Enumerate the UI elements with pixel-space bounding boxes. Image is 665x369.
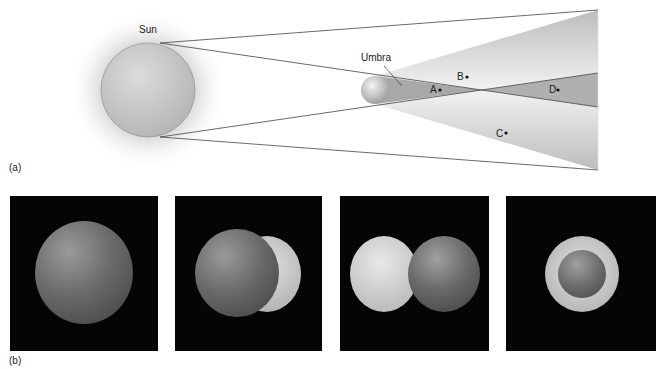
point-a-label: A xyxy=(430,84,437,95)
point-d-label: D xyxy=(549,84,556,95)
point-b-label: B xyxy=(457,71,464,82)
moon-body xyxy=(361,76,389,104)
moon-disk xyxy=(408,236,480,312)
sun-label: Sun xyxy=(139,24,157,35)
point-c-label: C xyxy=(496,128,503,139)
eclipse-panel-4 xyxy=(506,196,656,351)
sun xyxy=(101,43,195,137)
eclipse-panel-1 xyxy=(10,196,158,351)
part-b-label: (b) xyxy=(9,355,21,366)
moon-disk xyxy=(558,250,606,298)
umbra-label: Umbra xyxy=(361,52,391,63)
eclipse-panel-2 xyxy=(175,196,322,351)
moon-disk xyxy=(35,221,133,324)
eclipse-geometry-diagram xyxy=(0,0,665,190)
part-a-label: (a) xyxy=(9,162,21,173)
moon-disk xyxy=(195,229,279,317)
eclipse-panel-3 xyxy=(340,196,489,351)
